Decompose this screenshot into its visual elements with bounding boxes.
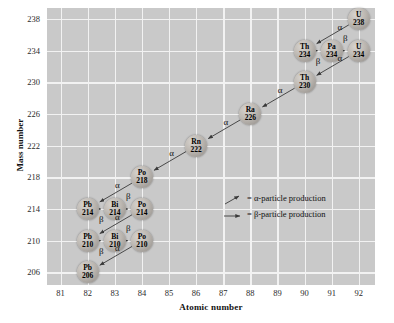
beta-arrow-icon (222, 208, 244, 220)
decay-label-alpha: α (273, 85, 287, 95)
nuclide-mass-number: 206 (82, 272, 93, 280)
nuclide-mass-number: 210 (82, 241, 93, 249)
decay-label-alpha: α (333, 53, 347, 63)
legend-row: = α-particle production (222, 191, 326, 204)
decay-label-alpha: α (219, 117, 233, 127)
nuclide-node[interactable]: Th230 (294, 71, 316, 93)
decay-label-alpha: α (110, 212, 124, 222)
nuclide-mass-number: 226 (245, 114, 256, 122)
nuclide-mass-number: 210 (136, 241, 147, 249)
decay-label-beta: β (121, 191, 135, 201)
decay-series-chart: U238Th234Pa234U234Th230Ra226Rn222Po218Pb… (0, 0, 394, 323)
decay-label-beta: β (94, 214, 108, 224)
decay-label-alpha: α (165, 148, 179, 158)
nuclide-node[interactable]: Po214 (131, 198, 153, 220)
legend: = α-particle production= β-particle prod… (222, 191, 326, 223)
nuclide-node[interactable]: U234 (348, 40, 370, 62)
decay-label-beta: β (311, 56, 325, 66)
decay-label-alpha: α (110, 180, 124, 190)
nuclide-mass-number: 234 (353, 51, 364, 59)
decay-label-alpha: α (333, 22, 347, 32)
nuclide-mass-number: 214 (82, 209, 93, 217)
legend-label: = α-particle production (247, 193, 326, 203)
decay-label-alpha: α (110, 243, 124, 253)
decay-label-beta: β (94, 246, 108, 256)
decay-label-beta: β (121, 223, 135, 233)
nuclide-node[interactable]: Rn222 (185, 135, 207, 157)
legend-label: = β-particle production (247, 209, 326, 219)
nuclide-mass-number: 230 (299, 82, 310, 90)
nuclide-mass-number: 214 (136, 209, 147, 217)
nuclide-mass-number: 218 (136, 177, 147, 185)
decay-label-beta: β (338, 33, 352, 43)
nuclide-node[interactable]: U238 (348, 8, 370, 30)
nuclide-node[interactable]: Po210 (131, 230, 153, 252)
nuclide-node[interactable]: Pb206 (77, 261, 99, 283)
nuclide-mass-number: 222 (190, 146, 201, 154)
nuclide-mass-number: 238 (353, 19, 364, 27)
legend-row: = β-particle production (222, 207, 326, 220)
alpha-arrow-icon (222, 192, 244, 204)
nuclide-mass-number: 234 (299, 51, 310, 59)
